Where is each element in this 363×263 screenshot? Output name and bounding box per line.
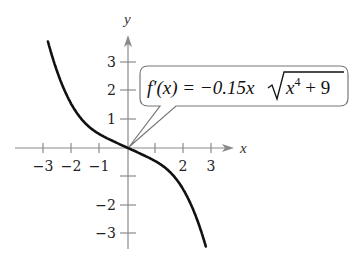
x-tick-label: 3	[207, 158, 216, 174]
y-tick-label: −3	[95, 225, 116, 241]
x-tick-label: 2	[179, 158, 188, 174]
formula-radicand-rest: + 9	[300, 77, 330, 98]
x-tick-label: −1	[89, 158, 110, 174]
y-tick-label: 1	[107, 111, 116, 127]
y-tick-label: −2	[95, 197, 116, 213]
formula-prefix: f′(x) = −0.15x	[147, 77, 255, 99]
x-tick-label: −2	[61, 158, 82, 174]
formula-text: f′(x) = −0.15x	[147, 77, 255, 99]
y-tick-label: 2	[107, 82, 116, 98]
y-axis: y	[122, 11, 132, 249]
y-axis-label: y	[122, 11, 131, 27]
graph-figure: x y −3−2−123 321−2−3 f′(x) = −0.15x x4 +…	[0, 0, 363, 263]
x-axis-label: x	[239, 140, 247, 156]
y-tick-label: 3	[107, 54, 116, 70]
formula-radicand: x4 + 9	[285, 75, 330, 98]
x-tick-label: −3	[33, 158, 54, 174]
formula-callout: f′(x) = −0.15x x4 + 9	[129, 66, 348, 147]
